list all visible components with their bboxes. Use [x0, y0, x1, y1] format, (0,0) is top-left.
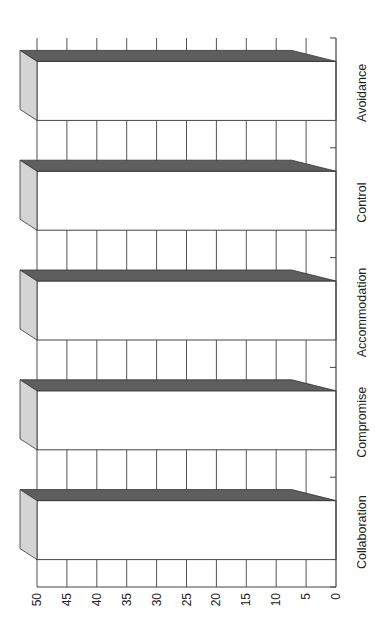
bar-top-face: [20, 270, 336, 281]
value-tick-label: 30: [150, 593, 164, 607]
category-axis-labels: CollaborationCompromiseAccommodationCont…: [355, 64, 369, 569]
bar-side-face: [20, 270, 37, 340]
category-label-control: Control: [355, 183, 369, 223]
category-label-accommodation: Accommodation: [355, 268, 369, 358]
bar-top-face: [20, 490, 336, 501]
bar-compromise: [20, 380, 336, 450]
bar-collaboration: [20, 490, 336, 560]
bar-front-face: [37, 171, 336, 230]
category-label-compromise: Compromise: [355, 387, 369, 458]
bar-top-face: [20, 50, 336, 61]
value-axis-tick-labels: 05101520253035404550: [30, 593, 343, 607]
value-tick-label: 15: [239, 593, 253, 607]
value-tick-label: 35: [120, 593, 134, 607]
bar-control: [20, 160, 336, 230]
bar-side-face: [20, 160, 37, 230]
value-tick-label: 45: [60, 593, 74, 607]
category-label-avoidance: Avoidance: [355, 64, 369, 122]
value-tick-label: 40: [90, 593, 104, 607]
value-tick-label: 25: [180, 593, 194, 607]
bar-accommodation: [20, 270, 336, 340]
chart-canvas: 05101520253035404550 CollaborationCompro…: [0, 0, 375, 638]
bar-front-face: [37, 391, 336, 450]
bar-front-face: [37, 281, 336, 340]
value-tick-label: 0: [329, 593, 343, 600]
value-tick-label: 20: [209, 593, 223, 607]
bar-front-face: [37, 61, 336, 120]
bar-top-face: [20, 160, 336, 171]
bar-top-face: [20, 380, 336, 391]
bar-chart: 05101520253035404550 CollaborationCompro…: [0, 0, 375, 638]
value-tick-label: 5: [299, 593, 313, 600]
value-tick-label: 10: [269, 593, 283, 607]
bar-side-face: [20, 50, 37, 120]
bar-front-face: [37, 501, 336, 560]
bar-avoidance: [20, 50, 336, 120]
bar-side-face: [20, 490, 37, 560]
bar-side-face: [20, 380, 37, 450]
category-label-collaboration: Collaboration: [355, 495, 369, 569]
value-tick-label: 50: [30, 593, 44, 607]
